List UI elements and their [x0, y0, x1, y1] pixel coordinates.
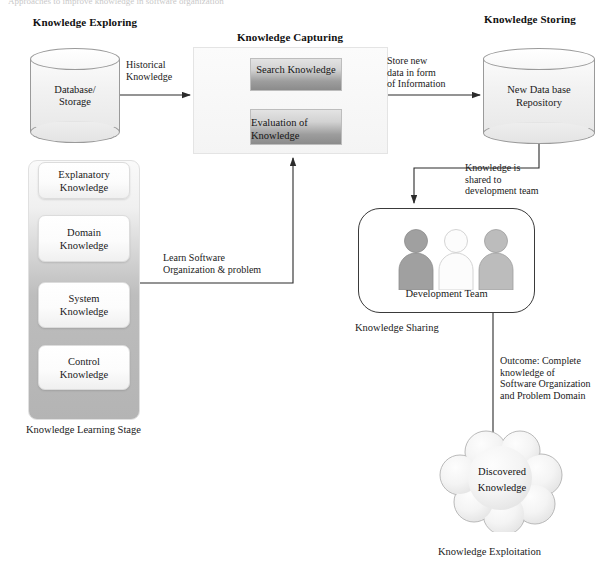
- control-line1: Control: [68, 355, 100, 368]
- person-icons-group: [396, 228, 516, 290]
- outcome-line2: knowledge of: [500, 367, 591, 379]
- caption-knowledge-exploitation: Knowledge Exploitation: [438, 546, 541, 557]
- outcome-line1: Outcome: Complete: [500, 355, 591, 367]
- database-storage-line2: Storage: [30, 96, 120, 109]
- evaluation-of-knowledge-box[interactable]: Evaluation of Knowledge: [250, 109, 342, 145]
- section-title-knowledge-exploring: Knowledge Exploring: [10, 16, 160, 28]
- control-line2: Knowledge: [60, 368, 108, 381]
- cylinder-bottom: [483, 122, 595, 144]
- evaluation-line1: Evaluation of: [251, 116, 308, 129]
- stack-item-control-knowledge[interactable]: Control Knowledge: [38, 345, 130, 390]
- historical-knowledge-line1: Historical: [126, 59, 172, 71]
- learn-software-line1: Learn Software: [163, 252, 261, 264]
- store-new-data-line1: Store new: [387, 55, 446, 67]
- explanatory-line1: Explanatory: [58, 168, 109, 181]
- historical-knowledge-line2: Knowledge: [126, 71, 172, 83]
- knowledge-shared-line3: development team: [465, 185, 539, 197]
- stack-item-explanatory-knowledge[interactable]: Explanatory Knowledge: [38, 162, 130, 199]
- edge-label-historical-knowledge: Historical Knowledge: [126, 59, 172, 82]
- discovered-line2: Knowledge: [436, 480, 568, 496]
- edge-label-learn-software: Learn Software Organization & problem: [163, 252, 261, 275]
- outcome-line3: Software Organization: [500, 378, 591, 390]
- database-storage-label: Database/ Storage: [30, 83, 120, 108]
- edge-label-outcome: Outcome: Complete knowledge of Software …: [500, 355, 591, 401]
- section-title-knowledge-capturing: Knowledge Capturing: [215, 31, 365, 43]
- knowledge-shared-line2: shared to: [465, 174, 539, 186]
- caption-knowledge-sharing: Knowledge Sharing: [355, 322, 439, 333]
- knowledge-shared-line1: Knowledge is: [465, 162, 539, 174]
- cylinder-bottom: [30, 121, 120, 143]
- system-line2: Knowledge: [60, 305, 108, 318]
- discovered-knowledge-cloud: Discovered Knowledge: [436, 428, 568, 532]
- learn-software-line2: Organization & problem: [163, 264, 261, 276]
- database-storage-line1: Database/: [30, 83, 120, 96]
- discovered-line1: Discovered: [436, 464, 568, 480]
- outcome-line4: and Problem Domain: [500, 390, 591, 402]
- cylinder-top: [30, 48, 120, 70]
- system-line1: System: [69, 292, 100, 305]
- edge-label-store-new-data: Store new data in form of Information: [387, 55, 446, 90]
- discovered-knowledge-label: Discovered Knowledge: [436, 464, 568, 496]
- new-database-repository-label: New Data base Repository: [483, 84, 595, 109]
- section-title-knowledge-storing: Knowledge Storing: [455, 13, 605, 25]
- new-database-line2: Repository: [483, 96, 595, 109]
- new-database-repository-cylinder: New Data base Repository: [483, 48, 595, 144]
- database-storage-cylinder: Database/ Storage: [30, 48, 120, 143]
- edge-label-knowledge-shared: Knowledge is shared to development team: [465, 162, 539, 197]
- stack-item-system-knowledge[interactable]: System Knowledge: [38, 282, 130, 328]
- development-team-label: Development Team: [358, 288, 535, 299]
- caption-knowledge-learning-stage: Knowledge Learning Stage: [26, 424, 141, 435]
- store-new-data-line2: data in form: [387, 67, 446, 79]
- stack-item-domain-knowledge[interactable]: Domain Knowledge: [38, 215, 130, 262]
- domain-line2: Knowledge: [60, 239, 108, 252]
- explanatory-line2: Knowledge: [60, 181, 108, 194]
- domain-line1: Domain: [67, 226, 101, 239]
- new-database-line1: New Data base: [483, 84, 595, 97]
- search-knowledge-box[interactable]: Search Knowledge: [250, 58, 342, 91]
- person-icon-left: [399, 230, 433, 291]
- person-icon-right: [479, 230, 513, 291]
- store-new-data-line3: of Information: [387, 78, 446, 90]
- search-knowledge-label: Search Knowledge: [256, 63, 336, 76]
- evaluation-line2: Knowledge: [251, 129, 299, 142]
- cylinder-top: [483, 48, 595, 70]
- person-icon-middle: [439, 230, 473, 291]
- diagram-canvas: Approaches to improve knowledge in softw…: [0, 0, 614, 573]
